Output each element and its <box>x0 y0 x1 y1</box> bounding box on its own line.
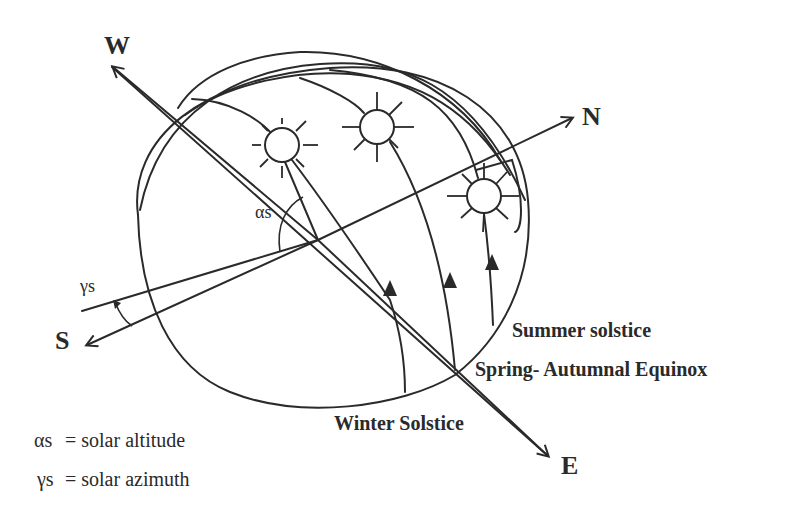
azimuth-angle-label: γs <box>79 276 95 296</box>
south-arrow <box>87 240 318 345</box>
winter-path-lower <box>292 160 405 392</box>
winter-sun-icon <box>252 118 318 178</box>
legend-altitude-text: = solar altitude <box>65 429 185 451</box>
legend: αs = solar altitude γs = solar azimuth <box>34 429 190 491</box>
north-arrow <box>318 118 572 240</box>
sun-azimuth-line <box>82 240 318 311</box>
summer-path-upper <box>330 70 478 178</box>
equinox-path-arrowhead <box>443 272 457 288</box>
north-label: N <box>582 102 601 131</box>
altitude-angle-label: αs <box>255 202 271 222</box>
west-label: W <box>104 31 130 60</box>
south-label: S <box>55 326 69 355</box>
legend-azimuth-text: = solar azimuth <box>65 468 190 490</box>
solar-path-diagram: W N S E αs γs Summer solstice Spring- Au… <box>0 0 811 516</box>
summer-solstice-label: Summer solstice <box>512 319 651 341</box>
sky-dome-outline <box>137 67 529 407</box>
west-east-axis <box>112 67 548 456</box>
equinox-path-upper <box>300 78 364 113</box>
equinox-label: Spring- Autumnal Equinox <box>475 358 707 381</box>
east-label: E <box>561 451 578 480</box>
winter-path-arrowhead <box>383 280 397 296</box>
legend-azimuth-symbol: γs <box>36 468 54 491</box>
legend-altitude-symbol: αs <box>34 429 52 451</box>
summer-path-arrowhead <box>485 254 499 270</box>
winter-solstice-label: Winter Solstice <box>334 412 464 434</box>
